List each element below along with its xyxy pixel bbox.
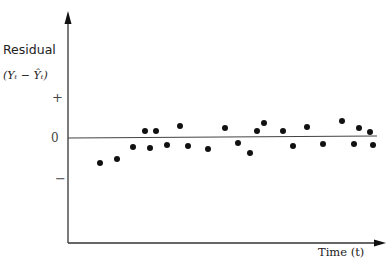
data-point <box>320 141 326 147</box>
data-point <box>356 125 362 131</box>
data-point <box>177 123 183 129</box>
data-point <box>370 142 376 148</box>
data-point <box>247 150 253 156</box>
x-axis-label: Time (t) <box>318 245 364 259</box>
data-point <box>254 128 260 134</box>
data-point <box>185 143 191 149</box>
data-point <box>261 120 267 126</box>
y-tick-minus: − <box>55 171 66 186</box>
data-point <box>164 142 170 148</box>
data-point <box>235 140 241 146</box>
zero-line <box>68 136 377 138</box>
data-point <box>304 124 310 130</box>
data-point <box>147 145 153 151</box>
data-point <box>351 141 357 147</box>
y-axis-formula: (Yₜ − Ŷₜ) <box>3 69 48 82</box>
x-axis-arrow-icon <box>374 240 386 247</box>
y-tick-plus: + <box>52 90 63 105</box>
data-point <box>130 144 136 150</box>
residual-plot <box>0 0 387 259</box>
data-point <box>339 118 345 124</box>
data-point <box>205 146 211 152</box>
y-axis-arrow-icon <box>65 11 72 24</box>
data-point <box>280 128 286 134</box>
data-point <box>97 160 103 166</box>
data-point <box>222 125 228 131</box>
data-point <box>153 128 159 134</box>
data-point <box>367 129 373 135</box>
data-points <box>97 118 376 166</box>
data-point <box>290 143 296 149</box>
data-point <box>114 156 120 162</box>
data-point <box>142 128 148 134</box>
y-tick-zero: 0 <box>51 131 59 145</box>
y-axis-label: Residual <box>3 42 56 57</box>
